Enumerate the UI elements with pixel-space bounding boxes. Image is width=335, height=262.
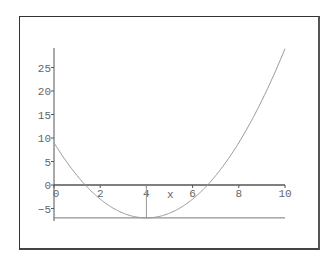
axis-ticks: −505101520250246810 [38, 63, 292, 216]
parabola-chart: −505101520250246810 x [0, 0, 335, 262]
y-tick-label: 0 [44, 180, 51, 192]
x-tick-label: 2 [97, 188, 104, 200]
y-tick-label: 10 [38, 133, 51, 145]
x-tick-label: 0 [53, 188, 60, 200]
y-tick-label: 25 [38, 63, 51, 75]
x-tick-label: 6 [189, 188, 196, 200]
y-tick-label: 20 [38, 86, 51, 98]
y-tick-label: −5 [38, 204, 51, 216]
y-tick-label: 5 [44, 157, 51, 169]
y-tick-label: 15 [38, 110, 51, 122]
x-tick-label: 8 [235, 188, 242, 200]
x-tick-label: 10 [278, 188, 291, 200]
x-axis-label: x [167, 189, 174, 201]
